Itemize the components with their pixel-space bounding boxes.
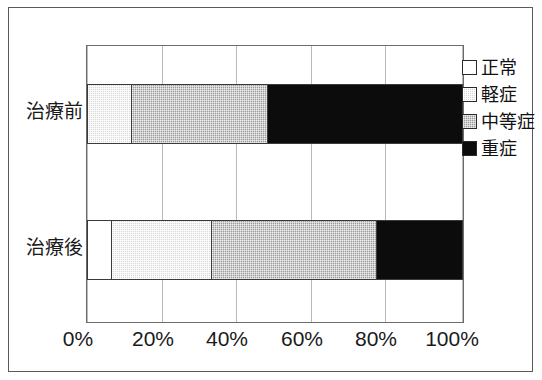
- x-tick-0: 0%: [48, 327, 108, 351]
- chart-figure: 治療前 治療後 0% 20%: [0, 0, 542, 380]
- legend-label-moderate: 中等症: [481, 113, 535, 131]
- legend-item-severe[interactable]: 重症: [462, 135, 534, 162]
- bar-segment-after-normal[interactable]: [87, 220, 112, 280]
- legend-item-normal[interactable]: 正常: [462, 54, 534, 81]
- x-tick-60: 60%: [272, 327, 332, 351]
- light-gray-square-icon: [462, 87, 477, 102]
- y-axis-label-after: 治療後: [17, 232, 83, 259]
- legend-label-normal: 正常: [481, 59, 517, 77]
- bar-segment-before-mild[interactable]: [87, 84, 132, 144]
- x-tick-80: 80%: [346, 327, 406, 351]
- black-square-icon: [462, 141, 477, 156]
- legend: 正常 軽症 中等症 重症: [462, 54, 534, 162]
- white-square-icon: [462, 60, 477, 75]
- medium-gray-square-icon: [462, 114, 477, 129]
- legend-label-mild: 軽症: [481, 86, 517, 104]
- bar-segment-before-moderate[interactable]: [131, 84, 268, 144]
- legend-item-mild[interactable]: 軽症: [462, 81, 534, 108]
- plot-area: [86, 45, 464, 323]
- x-tick-100: 100%: [417, 327, 487, 351]
- x-tick-20: 20%: [123, 327, 183, 351]
- x-tick-40: 40%: [197, 327, 257, 351]
- figure-frame: 治療前 治療後 0% 20%: [8, 7, 533, 372]
- bar-segment-before-severe[interactable]: [267, 84, 463, 144]
- bar-segment-after-mild[interactable]: [111, 220, 212, 280]
- legend-item-moderate[interactable]: 中等症: [462, 108, 534, 135]
- bar-segment-after-severe[interactable]: [376, 220, 463, 280]
- y-axis-label-before: 治療前: [17, 96, 83, 123]
- bar-segment-after-moderate[interactable]: [211, 220, 377, 280]
- legend-label-severe: 重症: [481, 140, 517, 158]
